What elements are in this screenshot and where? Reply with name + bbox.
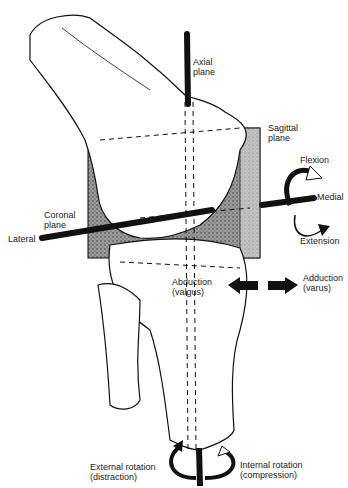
fibula-bone xyxy=(98,284,140,409)
adduction-label: Adduction (varus) xyxy=(303,273,343,293)
coronal-plane-label: Coronal plane xyxy=(44,210,76,230)
flexion-label: Flexion xyxy=(300,155,329,165)
adduction-arrow-icon xyxy=(268,277,298,294)
external-rotation-label: External rotation (distraction) xyxy=(90,462,156,482)
lateral-label: Lateral xyxy=(8,234,36,244)
axial-plane-label: Axial plane xyxy=(193,57,215,77)
medial-label: Medial xyxy=(317,192,344,202)
axial-axis xyxy=(187,34,188,104)
abduction-label: Abduction (valgus) xyxy=(172,277,212,297)
extension-label: Extension xyxy=(300,236,340,246)
internal-rotation-label: Internal rotation (compression) xyxy=(240,460,303,480)
internal-rotation-arrow-icon xyxy=(205,446,233,478)
femur-bone xyxy=(30,15,246,238)
sagittal-plane-label: Sagittal plane xyxy=(268,123,298,143)
knee-diagram xyxy=(0,0,348,488)
extension-arrow-icon xyxy=(295,215,330,236)
axial-axis-bottom xyxy=(199,448,200,486)
